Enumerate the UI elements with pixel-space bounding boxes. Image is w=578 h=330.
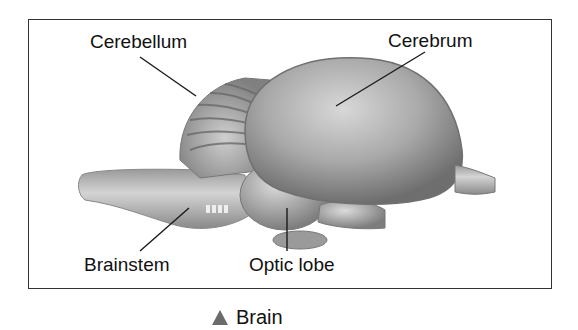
figure-caption: Brain [212, 307, 283, 327]
brainstem-shape [78, 169, 250, 228]
label-cerebellum: Cerebellum [90, 32, 187, 51]
label-brainstem: Brainstem [84, 255, 170, 274]
triangle-marker-icon [212, 310, 228, 325]
label-optic-lobe: Optic lobe [249, 255, 335, 274]
brain-illustration [0, 0, 578, 330]
caption-text: Brain [236, 307, 283, 327]
label-cerebrum: Cerebrum [388, 31, 472, 50]
cerebrum-shape [245, 58, 495, 205]
